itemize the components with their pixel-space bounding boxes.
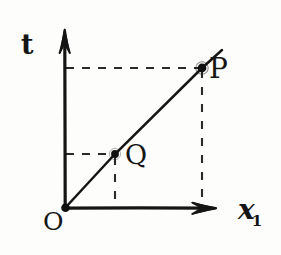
space-axis-label-subscript: 1 bbox=[252, 212, 262, 230]
event-label-p: P bbox=[209, 55, 228, 83]
spacetime-diagram-figure: t x1 O Q P bbox=[0, 0, 281, 255]
event-label-q: Q bbox=[123, 140, 148, 169]
origin-label: O bbox=[43, 209, 64, 234]
space-axis-label: x1 bbox=[238, 196, 262, 229]
event-dot-p bbox=[198, 64, 207, 73]
time-axis-group bbox=[60, 29, 70, 208]
time-axis-label: t bbox=[21, 31, 33, 58]
event-dot-q bbox=[111, 150, 119, 158]
space-axis-group bbox=[65, 203, 217, 215]
